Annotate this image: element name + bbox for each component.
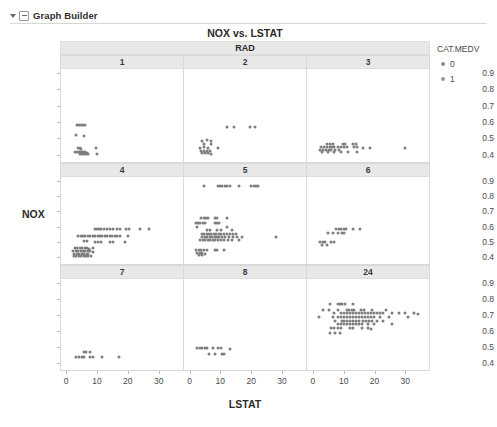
data-point[interactable]: [213, 352, 216, 355]
minus-box-icon[interactable]: [19, 11, 29, 21]
data-point[interactable]: [83, 355, 86, 358]
data-point[interactable]: [223, 352, 226, 355]
data-point[interactable]: [331, 315, 334, 318]
data-point[interactable]: [351, 327, 354, 330]
data-point[interactable]: [406, 315, 409, 318]
data-point[interactable]: [412, 311, 415, 314]
data-point[interactable]: [127, 227, 130, 230]
data-point[interactable]: [206, 347, 209, 350]
data-point[interactable]: [88, 350, 91, 353]
data-point[interactable]: [219, 347, 222, 350]
triangle-down-icon[interactable]: [10, 14, 16, 18]
data-point[interactable]: [219, 239, 222, 242]
data-point[interactable]: [327, 232, 330, 235]
data-point[interactable]: [215, 229, 218, 232]
facet-plot-area[interactable]: [307, 279, 429, 370]
data-point[interactable]: [228, 347, 231, 350]
facet-panel-4[interactable]: 4: [60, 163, 184, 265]
data-point[interactable]: [417, 313, 420, 316]
data-point[interactable]: [225, 225, 228, 228]
data-point[interactable]: [228, 185, 231, 188]
data-point[interactable]: [362, 146, 365, 149]
data-point[interactable]: [403, 311, 406, 314]
data-point[interactable]: [119, 227, 122, 230]
data-point[interactable]: [101, 355, 104, 358]
data-point[interactable]: [218, 221, 221, 224]
data-point[interactable]: [215, 217, 218, 220]
data-point[interactable]: [208, 229, 211, 232]
facet-panel-3[interactable]: 3: [307, 55, 430, 163]
data-point[interactable]: [359, 227, 362, 230]
facet-plot-area[interactable]: [61, 177, 183, 264]
facet-plot-area[interactable]: [307, 177, 429, 264]
data-point[interactable]: [127, 235, 130, 238]
data-point[interactable]: [325, 243, 328, 246]
data-point[interactable]: [82, 135, 85, 138]
data-point[interactable]: [87, 152, 90, 155]
data-point[interactable]: [117, 355, 120, 358]
facet-plot-area[interactable]: [61, 279, 183, 370]
data-point[interactable]: [403, 146, 406, 149]
data-point[interactable]: [338, 332, 341, 335]
data-point[interactable]: [367, 322, 370, 325]
data-point[interactable]: [200, 254, 203, 257]
data-point[interactable]: [274, 236, 277, 239]
data-point[interactable]: [321, 243, 324, 246]
data-point[interactable]: [391, 322, 394, 325]
data-point[interactable]: [84, 124, 87, 127]
data-point[interactable]: [230, 229, 233, 232]
data-point[interactable]: [345, 145, 348, 148]
data-point[interactable]: [373, 322, 376, 325]
facet-panel-8[interactable]: 8: [184, 265, 307, 371]
facet-plot-area[interactable]: [184, 69, 306, 162]
facet-panel-7[interactable]: 7: [60, 265, 184, 371]
data-point[interactable]: [356, 145, 359, 148]
facet-plot-area[interactable]: [307, 69, 429, 162]
data-point[interactable]: [237, 239, 240, 242]
data-point[interactable]: [216, 147, 219, 150]
data-point[interactable]: [89, 254, 92, 257]
data-point[interactable]: [351, 303, 354, 306]
data-point[interactable]: [317, 315, 320, 318]
data-point[interactable]: [207, 217, 210, 220]
data-point[interactable]: [86, 239, 89, 242]
data-point[interactable]: [388, 315, 391, 318]
data-point[interactable]: [211, 347, 214, 350]
data-point[interactable]: [332, 240, 335, 243]
data-point[interactable]: [360, 327, 363, 330]
data-point[interactable]: [225, 217, 228, 220]
facet-panel-1[interactable]: 1: [60, 55, 184, 163]
data-point[interactable]: [382, 311, 385, 314]
data-point[interactable]: [321, 151, 324, 154]
data-point[interactable]: [240, 236, 243, 239]
data-point[interactable]: [215, 248, 218, 251]
data-point[interactable]: [257, 185, 260, 188]
facet-plot-area[interactable]: [61, 69, 183, 162]
data-point[interactable]: [254, 125, 257, 128]
data-point[interactable]: [91, 355, 94, 358]
data-point[interactable]: [345, 227, 348, 230]
data-point[interactable]: [223, 239, 226, 242]
data-point[interactable]: [376, 319, 379, 322]
data-point[interactable]: [351, 227, 354, 230]
data-point[interactable]: [95, 146, 98, 149]
facet-panel-5[interactable]: 5: [184, 163, 307, 265]
data-point[interactable]: [222, 248, 225, 251]
data-point[interactable]: [206, 138, 209, 141]
data-point[interactable]: [329, 303, 332, 306]
data-point[interactable]: [112, 240, 115, 243]
data-point[interactable]: [373, 315, 376, 318]
data-point[interactable]: [333, 151, 336, 154]
data-point[interactable]: [329, 332, 332, 335]
data-point[interactable]: [112, 227, 115, 230]
data-point[interactable]: [347, 151, 350, 154]
data-point[interactable]: [208, 352, 211, 355]
data-point[interactable]: [202, 145, 205, 148]
facet-panel-6[interactable]: 6: [307, 163, 430, 265]
data-point[interactable]: [226, 239, 229, 242]
data-point[interactable]: [124, 240, 127, 243]
data-point[interactable]: [119, 235, 122, 238]
data-point[interactable]: [203, 252, 206, 255]
data-point[interactable]: [92, 247, 95, 250]
data-point[interactable]: [95, 152, 98, 155]
